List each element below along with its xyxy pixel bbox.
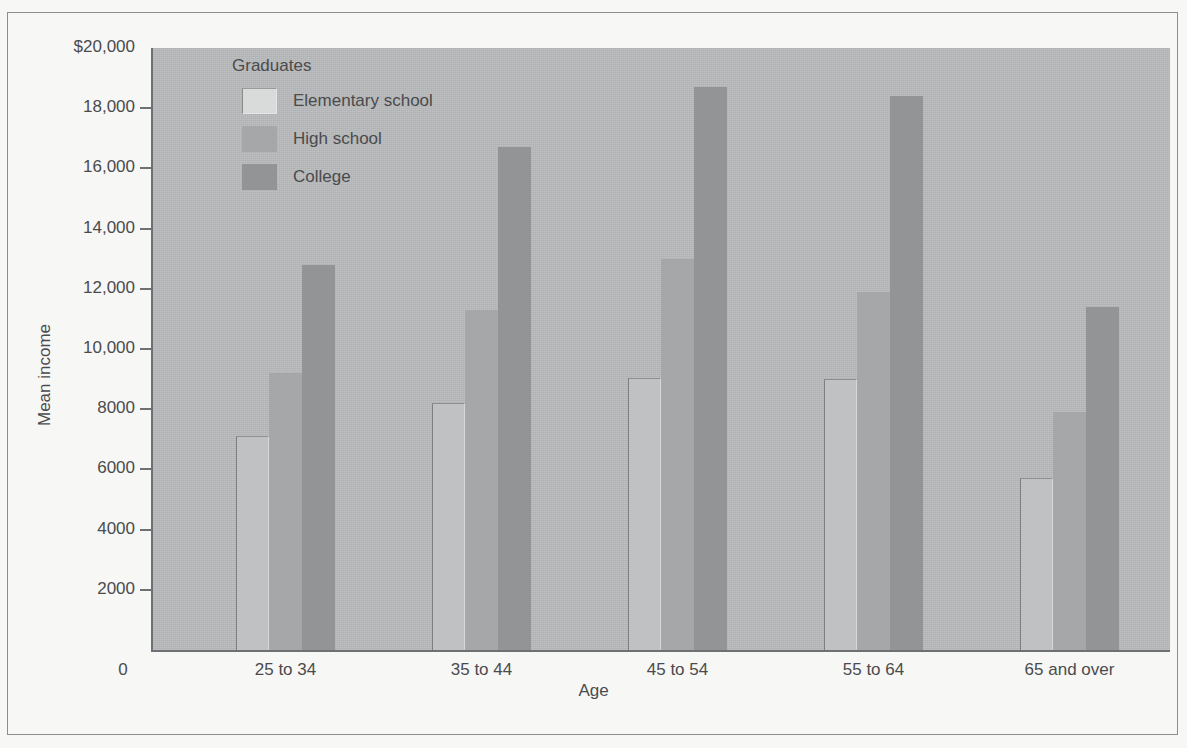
y-axis-tick-label: $20,000 — [10, 37, 135, 57]
y-axis-tick — [140, 589, 153, 591]
legend-swatch-elementary — [242, 88, 277, 114]
legend-title: Graduates — [232, 56, 512, 76]
bar-college-1 — [302, 265, 335, 650]
bar-college-4 — [890, 96, 923, 650]
y-axis-tick — [140, 288, 153, 290]
chart-figure: $20,00018,00016,00014,00012,00010,000800… — [0, 0, 1187, 748]
x-axis-category-label: 65 and over — [995, 660, 1145, 680]
y-axis-tick-label: 4000 — [10, 519, 135, 539]
bar-elementary-4 — [824, 379, 857, 650]
y-axis-tick-label-text: 12,000 — [15, 278, 135, 298]
legend-swatch-highschool — [242, 126, 277, 152]
y-axis-tick-label-text: 8000 — [15, 398, 135, 418]
x-axis-title: Age — [0, 681, 1187, 701]
legend-label-college: College — [293, 167, 351, 187]
x-axis-category-label: 45 to 54 — [603, 660, 753, 680]
y-axis-tick-label-text: 10,000 — [15, 338, 135, 358]
y-axis-tick-label-text: 18,000 — [15, 97, 135, 117]
y-axis-tick — [140, 167, 153, 169]
y-axis-tick — [140, 468, 153, 470]
x-axis-category-label: 25 to 34 — [211, 660, 361, 680]
plot-area: Graduates Elementary schoolHigh schoolCo… — [152, 48, 1170, 650]
bar-college-5 — [1086, 307, 1119, 650]
legend-label-highschool: High school — [293, 129, 382, 149]
y-axis-tick-label: 16,000 — [10, 157, 135, 177]
chart-legend: Graduates Elementary schoolHigh schoolCo… — [232, 56, 512, 196]
y-axis-tick-label: 12,000 — [10, 278, 135, 298]
y-axis-tick-label-text: 2000 — [15, 579, 135, 599]
x-axis-origin-label: 0 — [108, 660, 138, 680]
y-axis-tick-label-text: 14,000 — [15, 218, 135, 238]
y-axis-tick — [140, 529, 153, 531]
bar-elementary-3 — [628, 378, 661, 650]
x-axis-line — [152, 650, 1170, 652]
y-axis-line — [151, 48, 153, 652]
y-axis-tick — [140, 348, 153, 350]
bar-elementary-2 — [432, 403, 465, 650]
y-axis-tick-label: 18,000 — [10, 97, 135, 117]
legend-item-elementary: Elementary school — [232, 82, 512, 120]
legend-label-elementary: Elementary school — [293, 91, 433, 111]
bar-elementary-5 — [1020, 478, 1053, 650]
legend-item-college: College — [232, 158, 512, 196]
y-axis-tick-label-text: 4000 — [15, 519, 135, 539]
x-axis-category-label: 35 to 44 — [407, 660, 557, 680]
y-axis-tick-label: 14,000 — [10, 218, 135, 238]
y-axis-tick-label-text: $20,000 — [15, 37, 135, 57]
y-axis-tick-label: 6000 — [10, 458, 135, 478]
bar-highschool-2 — [465, 310, 498, 650]
y-axis-tick-label-text: 16,000 — [15, 157, 135, 177]
legend-swatch-college — [242, 164, 277, 190]
y-axis-tick — [140, 228, 153, 230]
y-axis-tick-label: 2000 — [10, 579, 135, 599]
bar-highschool-1 — [269, 373, 302, 650]
bar-highschool-5 — [1053, 412, 1086, 650]
y-axis-tick-label-text: 6000 — [15, 458, 135, 478]
y-axis-title: Mean income — [35, 305, 55, 445]
y-axis-tick-label: 8000 — [10, 398, 135, 418]
bar-highschool-3 — [661, 259, 694, 650]
bar-college-2 — [498, 147, 531, 650]
bar-highschool-4 — [857, 292, 890, 650]
y-axis-tick-label: 10,000 — [10, 338, 135, 358]
bar-elementary-1 — [236, 436, 269, 650]
x-axis-category-label: 55 to 64 — [799, 660, 949, 680]
y-axis-tick — [140, 107, 153, 109]
legend-item-highschool: High school — [232, 120, 512, 158]
y-axis-tick — [140, 408, 153, 410]
legend-items: Elementary schoolHigh schoolCollege — [232, 82, 512, 196]
bar-college-3 — [694, 87, 727, 650]
